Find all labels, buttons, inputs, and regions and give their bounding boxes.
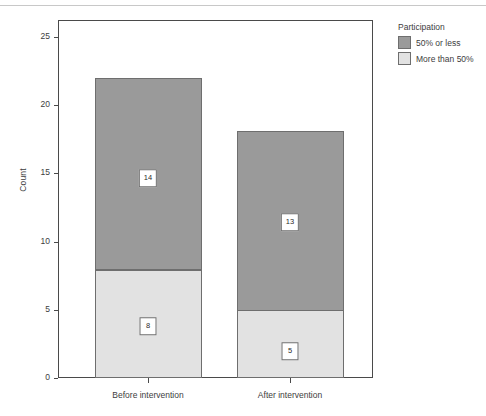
y-tick-label-10: 10	[41, 236, 50, 246]
top-divider-rule	[0, 5, 486, 6]
y-tick-25: 25	[0, 37, 58, 38]
y-tick-label-20: 20	[41, 99, 50, 109]
y-tick-label-5: 5	[45, 304, 50, 314]
data-label-after-50-or-less: 13	[281, 213, 299, 231]
y-axis-title: Count	[18, 145, 28, 215]
data-label-after-more-than-50: 5	[282, 342, 299, 360]
y-tick-5: 5	[0, 310, 58, 311]
x-tick-label-before: Before intervention	[88, 390, 208, 400]
legend-item-50-or-less[interactable]: 50% or less	[398, 36, 484, 49]
y-tick-mark-0	[54, 378, 58, 379]
y-tick-10: 10	[0, 242, 58, 243]
x-tick-mark-after	[290, 378, 291, 383]
y-tick-label-0: 0	[45, 372, 50, 382]
y-tick-label-25: 25	[41, 31, 50, 41]
legend-label-more-than-50: More than 50%	[416, 54, 474, 64]
x-tick-label-after: After intervention	[230, 390, 350, 400]
chart-legend: Participation 50% or less More than 50%	[398, 22, 484, 68]
legend-swatch-50-or-less	[398, 36, 411, 49]
legend-label-50-or-less: 50% or less	[416, 38, 460, 48]
y-tick-label-15: 15	[41, 167, 50, 177]
legend-item-more-than-50[interactable]: More than 50%	[398, 52, 484, 65]
x-tick-mark-before	[148, 378, 149, 383]
y-tick-0: 0	[0, 378, 58, 379]
data-label-before-more-than-50: 8	[140, 317, 157, 335]
legend-title: Participation	[398, 22, 484, 32]
data-label-before-50-or-less: 14	[139, 169, 157, 187]
y-tick-20: 20	[0, 105, 58, 106]
y-tick-15: 15	[0, 173, 58, 174]
legend-swatch-more-than-50	[398, 52, 411, 65]
chart-figure: Count 25 20 15 10 5 0 14 8 13 5 Before i…	[0, 0, 486, 416]
